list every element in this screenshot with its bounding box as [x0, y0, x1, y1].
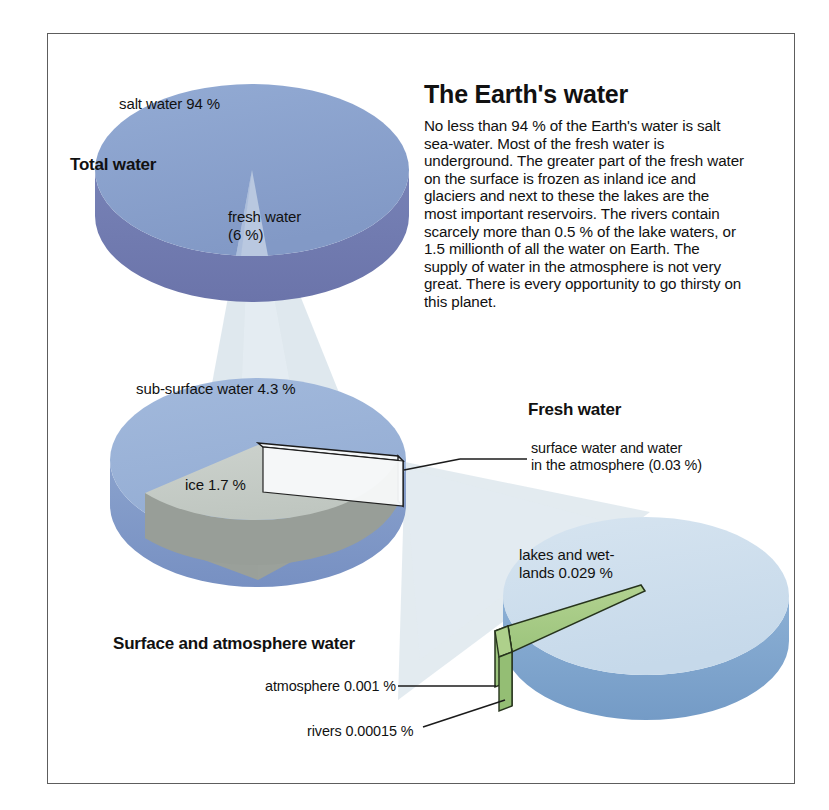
- pie-title-fresh-water: Fresh water: [528, 400, 621, 420]
- label-fresh-water: fresh water (6 %): [228, 208, 358, 243]
- label-lakes-and-wetlands-line2: lands 0.029 %: [519, 564, 659, 582]
- figure-stage: The Earth's water No less than 94 % of t…: [0, 0, 829, 810]
- label-fresh-water-line2: (6 %): [228, 226, 358, 244]
- label-lakes-and-wetlands-line1: lakes and wet-: [519, 546, 659, 564]
- leader-line-rivers: [423, 700, 505, 727]
- label-ice: ice 1.7 %: [185, 476, 246, 494]
- label-rivers: rivers 0.00015 %: [307, 723, 413, 740]
- label-salt-water: salt water 94 %: [119, 95, 220, 113]
- body-paragraph: No less than 94 % of the Earth's water i…: [424, 117, 744, 311]
- pie-title-total-water: Total water: [70, 155, 156, 175]
- label-atmosphere: atmosphere 0.001 %: [265, 678, 396, 695]
- label-fresh-water-line1: fresh water: [228, 208, 358, 226]
- label-surface-and-atmosphere-line1: surface water and water: [531, 440, 761, 457]
- pie-title-surface-atmosphere-water: Surface and atmosphere water: [113, 634, 355, 654]
- slice-lakes-body: [503, 517, 789, 675]
- label-lakes-and-wetlands: lakes and wet- lands 0.029 %: [519, 546, 659, 581]
- page-title: The Earth's water: [424, 80, 754, 109]
- label-sub-surface-water: sub-surface water 4.3 %: [136, 380, 295, 398]
- label-surface-and-atmosphere: surface water and water in the atmospher…: [531, 440, 761, 474]
- pie-total-water: [95, 84, 409, 302]
- label-surface-and-atmosphere-line2: in the atmosphere (0.03 %): [531, 457, 761, 474]
